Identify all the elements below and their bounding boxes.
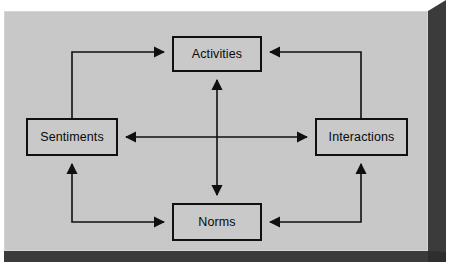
diagram-figure: Activities Sentiments Interactions Norms	[0, 0, 453, 273]
node-norms: Norms	[172, 203, 262, 241]
node-activities-label: Activities	[192, 48, 242, 61]
edge-sentiments-norms	[72, 164, 164, 222]
edge-interactions-norms	[270, 164, 361, 222]
node-activities: Activities	[172, 36, 262, 72]
node-norms-label: Norms	[198, 216, 235, 229]
node-sentiments-label: Sentiments	[40, 131, 104, 144]
node-interactions: Interactions	[315, 118, 408, 156]
node-sentiments: Sentiments	[26, 118, 118, 156]
node-interactions-label: Interactions	[329, 131, 395, 144]
